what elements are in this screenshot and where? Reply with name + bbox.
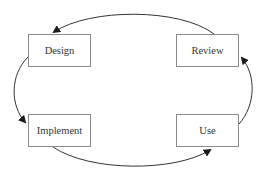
node-implement: Implement	[28, 114, 91, 147]
node-use: Use	[176, 114, 239, 147]
edge-design-to-implement	[14, 57, 28, 122]
node-implement-label: Implement	[37, 125, 83, 136]
node-design-label: Design	[45, 45, 75, 56]
node-review: Review	[176, 34, 239, 67]
edge-implement-to-use	[53, 147, 210, 166]
node-design: Design	[28, 34, 91, 67]
edge-use-to-review	[239, 58, 252, 124]
edge-review-to-design	[54, 14, 214, 34]
cycle-diagram	[0, 0, 263, 174]
node-review-label: Review	[191, 45, 223, 56]
node-use-label: Use	[199, 125, 215, 136]
